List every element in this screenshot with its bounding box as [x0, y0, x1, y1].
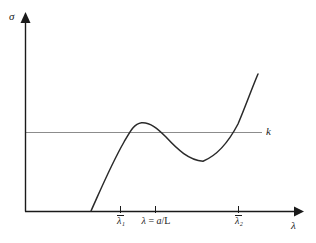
x-tick-label-lambda-a-over-L: λ = a/L: [131, 216, 181, 226]
lambda-eq-equals: =: [146, 215, 157, 226]
lambda-bar-2-symbol: λ₂: [235, 216, 243, 226]
k-level-label: k: [266, 126, 271, 137]
y-axis-arrowhead: [21, 12, 31, 23]
lambda-bar-1-text: λ₁: [117, 215, 125, 226]
x-axis-label: λ: [291, 220, 296, 231]
sigma-lambda-figure: σ λ k λ₁ λ = a/L λ₂: [0, 0, 316, 243]
lambda-bar-1-symbol: λ₁: [117, 216, 125, 226]
plot-canvas: [0, 0, 316, 243]
overbar-1: [117, 215, 124, 216]
x-tick-label-lambda-bar-2: λ₂: [223, 216, 255, 226]
lambda-eq-denominator: L: [164, 215, 170, 226]
sigma-lambda-curve: [91, 74, 258, 211]
lambda-bar-2-text: λ₂: [235, 215, 243, 226]
y-axis-label: σ: [9, 11, 14, 22]
x-axis-arrowhead: [294, 207, 304, 217]
overbar-2: [235, 215, 242, 216]
lambda-equation: λ = a/L: [142, 215, 171, 226]
